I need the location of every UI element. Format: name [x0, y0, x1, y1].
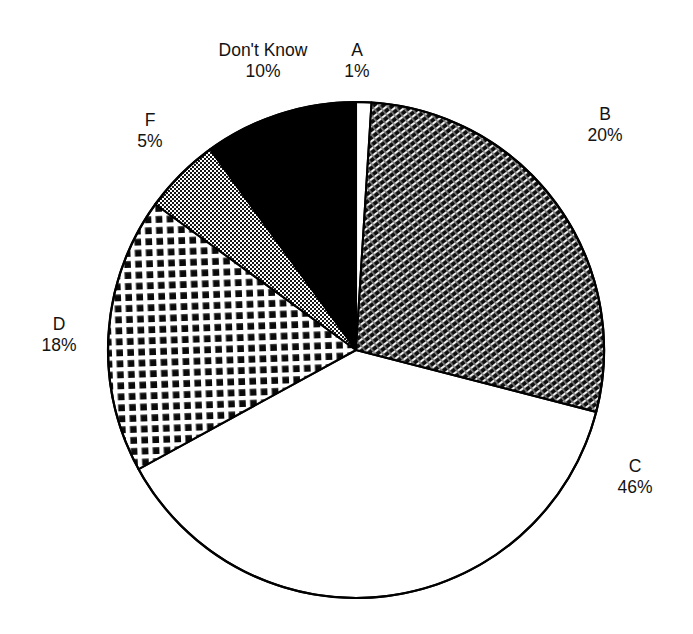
pie-label-c: C 46%: [590, 456, 680, 498]
pie-label-c-name: C: [590, 456, 680, 477]
pie-label-b: B 20%: [560, 104, 650, 146]
pie-label-dont-know-value: 10%: [168, 61, 358, 82]
pie-label-d-name: D: [14, 314, 104, 335]
pie-label-dont-know-name: Don't Know: [168, 40, 358, 61]
pie-chart-figure: A 1% B 20% C 46% D 18% F 5% Don't Know 1…: [0, 0, 693, 634]
pie-label-d-value: 18%: [14, 335, 104, 356]
pie-label-b-value: 20%: [560, 125, 650, 146]
pie-label-f-value: 5%: [110, 131, 190, 152]
pie-label-c-value: 46%: [590, 477, 680, 498]
pie-label-f-name: F: [110, 110, 190, 131]
pie-label-b-name: B: [560, 104, 650, 125]
pie-label-d: D 18%: [14, 314, 104, 356]
pie-label-dont-know: Don't Know 10%: [168, 40, 358, 82]
pie-label-f: F 5%: [110, 110, 190, 152]
